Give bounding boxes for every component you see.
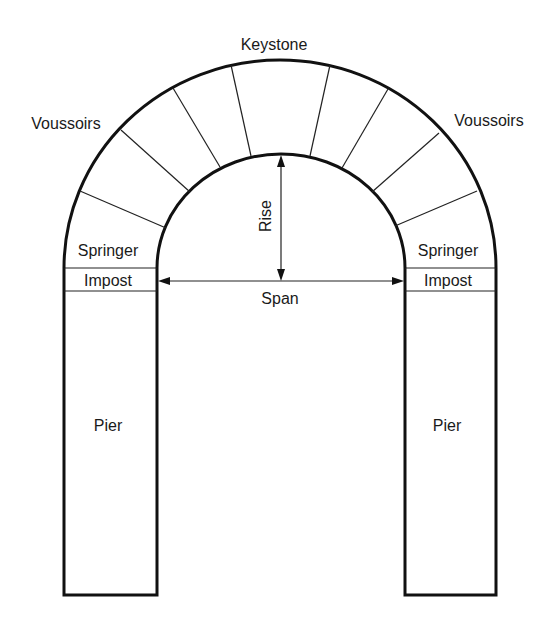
impost-left-label: Impost [84, 272, 133, 289]
rise-label: Rise [257, 200, 274, 232]
voussoir-joints [80, 65, 477, 228]
voussoirs-left-label: Voussoirs [31, 115, 100, 132]
span-label: Span [261, 290, 298, 307]
arch-diagram: Keystone Voussoirs Voussoirs Springer Sp… [0, 0, 558, 630]
pier-right-label: Pier [433, 417, 462, 434]
keystone-label: Keystone [241, 36, 308, 53]
springer-right-label: Springer [418, 242, 479, 259]
impost-right-label: Impost [424, 272, 473, 289]
pier-left-label: Pier [94, 417, 123, 434]
rise-arrow [277, 155, 285, 281]
springer-left-label: Springer [78, 242, 139, 259]
voussoirs-right-label: Voussoirs [454, 112, 523, 129]
